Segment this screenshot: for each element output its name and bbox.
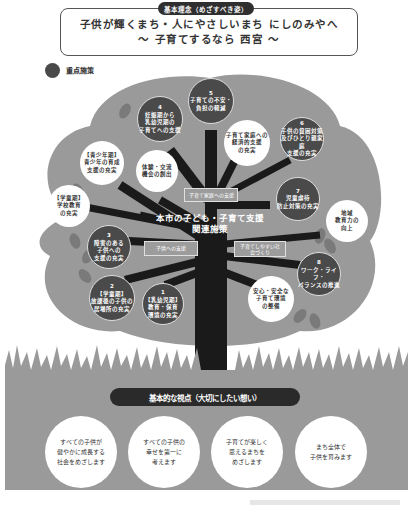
view-text: 子供を育みます bbox=[310, 452, 352, 462]
view-text: めざします bbox=[232, 457, 262, 467]
policy-number: 8 bbox=[317, 259, 321, 267]
policy-number: 4 bbox=[158, 104, 162, 112]
priority-policy-2: 2 【学童期】 放課後の子供の 居場所の充実 bbox=[89, 275, 135, 321]
priority-policy-4: 4 妊娠期から 乳幼児期の 子育てへの支援 bbox=[137, 96, 183, 142]
policy-text: 【乳幼児期】 bbox=[145, 297, 181, 305]
priority-policy-5: 5 子育ての不安・ 負担の軽減 bbox=[188, 78, 234, 124]
policy-text: 子育ての不安・ bbox=[190, 97, 232, 105]
policy-text: 子供への bbox=[97, 247, 121, 255]
basic-views-title: 基本的な視点（大切にしたい想い） bbox=[110, 388, 300, 406]
policy-text: ワーク・ライフ・ bbox=[298, 267, 340, 282]
basic-view-2: すべての子供の 幸せを第一に 考えます bbox=[128, 416, 200, 488]
policy-text: 防止対策の充実 bbox=[277, 203, 319, 211]
view-text: 社会をめざします bbox=[57, 457, 105, 467]
policy-text: 居場所の充実 bbox=[94, 306, 130, 314]
policy-community-education: 地域 教育力の 向上 bbox=[326, 200, 368, 242]
view-text: すべての子供が bbox=[60, 437, 102, 447]
basic-view-1: すべての子供が 健やかに成長する 社会をめざします bbox=[45, 416, 117, 488]
view-text: まち全体で bbox=[316, 442, 346, 452]
policy-number: 2 bbox=[110, 283, 114, 291]
policy-text: 環境の充実 bbox=[148, 312, 178, 320]
policy-text: の充実 bbox=[60, 210, 78, 218]
grass-decoration bbox=[5, 340, 408, 380]
policy-text: 子育て環境 bbox=[256, 295, 286, 303]
policy-text: 支援の充実 bbox=[287, 150, 317, 158]
priority-policy-1: 1 【乳幼児期】 教育・保育 環境の充実 bbox=[142, 283, 184, 325]
policy-text: 及びひとり親家庭 bbox=[281, 135, 323, 150]
policy-text: 放課後の子供の bbox=[91, 298, 133, 306]
center-title-line-1: 本市の子ども・子育て支援 bbox=[140, 213, 280, 224]
policy-text: 機会の創出 bbox=[142, 171, 172, 179]
view-text: 子育てが楽しく bbox=[226, 437, 268, 447]
basic-view-4: まち全体で 子供を育みます bbox=[295, 416, 367, 488]
priority-policy-8: 8 ワーク・ライフ・ バランスの推進 bbox=[297, 252, 341, 296]
policy-number: 3 bbox=[107, 232, 111, 240]
policy-text: 学校教育 bbox=[57, 202, 81, 210]
policy-text: 教育・保育 bbox=[148, 304, 178, 312]
category-box-child-support: 子供への支援 bbox=[144, 241, 198, 256]
policy-text: 児童虐待 bbox=[286, 195, 310, 203]
policy-number: 1 bbox=[161, 289, 165, 297]
policy-text: 体験・交流 bbox=[142, 164, 172, 172]
view-text: 幸せを第一に bbox=[146, 447, 182, 457]
priority-policy-3: 3 障害のある 子供への 支援の充実 bbox=[87, 225, 131, 269]
priority-policy-6: 6 子供の貧困対策 及びひとり親家庭 支援の充実 bbox=[280, 117, 324, 161]
policy-text: 経済的支援 bbox=[232, 139, 262, 147]
policy-text: 妊娠期から bbox=[145, 112, 175, 120]
policy-school-education: 【学童期】 学校教育 の充実 bbox=[48, 185, 90, 227]
policy-text: の整備 bbox=[262, 303, 280, 311]
policy-text: バランスの推進 bbox=[298, 282, 340, 290]
vision-badge: 基本理念（めざすべき姿） bbox=[158, 2, 254, 15]
policy-text: 子育てへの支援 bbox=[139, 127, 181, 135]
policy-text: 乳幼児期の bbox=[145, 119, 175, 127]
policy-text: 【学童期】 bbox=[97, 291, 127, 299]
policy-text: の充実 bbox=[238, 147, 256, 155]
policy-text: 青少年の育成 bbox=[84, 159, 120, 167]
view-text: すべての子供の bbox=[143, 437, 185, 447]
policy-experience-exchange: 体験・交流 機会の創出 bbox=[136, 150, 178, 192]
policy-text: 支援の充実 bbox=[94, 255, 124, 263]
policy-text: 向上 bbox=[341, 225, 353, 233]
policy-text: 教育力の bbox=[335, 217, 359, 225]
footer-note-faint bbox=[250, 500, 400, 505]
policy-youth-development: 【青少年期】 青少年の育成 支援の充実 bbox=[80, 141, 124, 185]
policy-economic-support: 子育て家庭への 経済的支援 の充実 bbox=[224, 120, 270, 166]
category-box-society: 子育てしやすい社会づくり bbox=[234, 241, 286, 257]
policy-text: 支援の充実 bbox=[87, 167, 117, 175]
policy-number: 6 bbox=[300, 120, 304, 128]
policy-safe-environment: 安心・安全な 子育て環境 の整備 bbox=[248, 276, 294, 322]
policy-text: 障害のある bbox=[94, 240, 124, 248]
category-box-family-support: 子育て家庭への支援 bbox=[184, 188, 238, 202]
priority-policy-7: 7 児童虐待 防止対策の充実 bbox=[276, 177, 320, 221]
basic-view-3: 子育てが楽しく 思えるまちを めざします bbox=[211, 416, 283, 488]
view-text: 考えます bbox=[152, 457, 176, 467]
view-text: 思えるまちを bbox=[229, 447, 265, 457]
policy-text: 負担の軽減 bbox=[196, 105, 226, 113]
view-text: 健やかに成長する bbox=[57, 447, 105, 457]
center-title-line-2: 関連施策 bbox=[140, 224, 280, 235]
tree-center-title: 本市の子ども・子育て支援 関連施策 bbox=[140, 213, 280, 235]
